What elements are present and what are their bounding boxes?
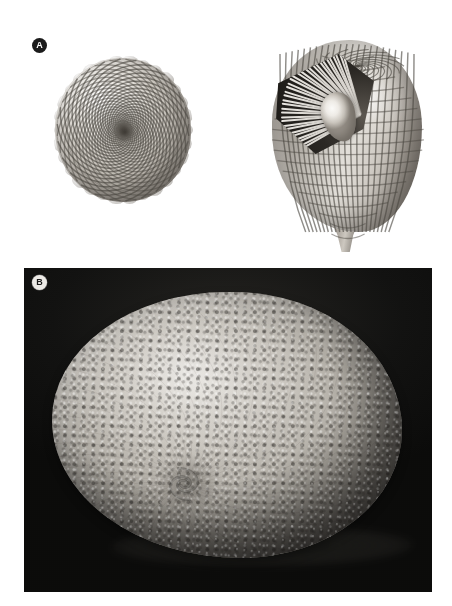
panel-label-a: A [32, 38, 47, 53]
apical-view-model [53, 54, 193, 206]
protoconch-core [115, 122, 135, 142]
panel-b: B [24, 268, 432, 592]
panel-label-b: B [32, 275, 47, 290]
panel-a: A [0, 0, 452, 266]
figure-plate: A [0, 0, 452, 606]
cutaway-lateral-model [266, 36, 428, 256]
specimen-vignette [52, 292, 402, 558]
specimen-photograph [52, 292, 402, 558]
growth-whorl-lines [52, 292, 402, 558]
umbilical-spiral-centre [138, 444, 234, 528]
